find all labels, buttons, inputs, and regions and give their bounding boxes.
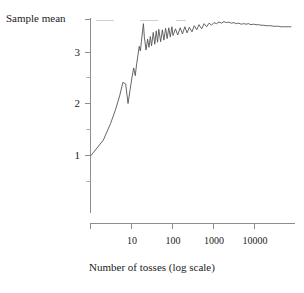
y-tick-label-1: 1 — [60, 150, 80, 161]
x-axis-title: Number of tosses (log scale) — [0, 262, 304, 273]
chart-figure: Sample mean 3 2 1 10 100 1000 10000 Numb… — [0, 0, 304, 293]
y-axis-minor-ticks — [87, 78, 91, 182]
x-tick-label-10: 10 — [110, 236, 154, 246]
y-axis-major-ticks — [85, 20, 91, 156]
x-tick-label-1000: 1000 — [192, 236, 236, 246]
y-tick-label-3: 3 — [60, 47, 80, 58]
data-series-line — [91, 22, 291, 156]
x-tick-label-100: 100 — [151, 236, 195, 246]
chart-plot-area — [0, 0, 304, 293]
x-tick-label-10000: 10000 — [233, 236, 277, 246]
x-axis-ticks — [91, 224, 255, 230]
y-axis-title: Sample mean — [6, 13, 66, 24]
y-tick-label-2: 2 — [60, 98, 80, 109]
